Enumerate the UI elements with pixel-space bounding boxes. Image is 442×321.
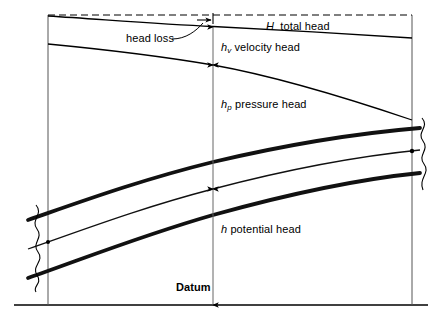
datum-text: Datum [176,281,211,293]
head-loss-text: head loss [126,32,174,44]
pressure-head-text: pressure head [235,98,307,110]
label-datum: Datum [176,282,211,293]
right-break-symbol [421,118,426,190]
energy-grade-line [48,16,412,38]
centerline-node-left-dot [46,240,50,244]
label-velocity-head: hv velocity head [221,42,300,55]
label-potential-head: h potential head [221,224,301,235]
total-head-symbol: H [266,20,274,32]
pipe-top-wall [28,128,420,220]
velocity-head-text: velocity head [234,41,300,53]
label-pressure-head: hp pressure head [221,99,307,112]
centerline-node-right-dot [410,149,414,153]
label-head-loss: head loss [126,33,174,44]
head-diagram-figure: H total head head loss hv velocity head … [0,0,442,321]
total-head-text: total head [280,20,329,32]
label-total-head: H total head [266,21,330,32]
potential-head-text: potential head [230,223,301,235]
